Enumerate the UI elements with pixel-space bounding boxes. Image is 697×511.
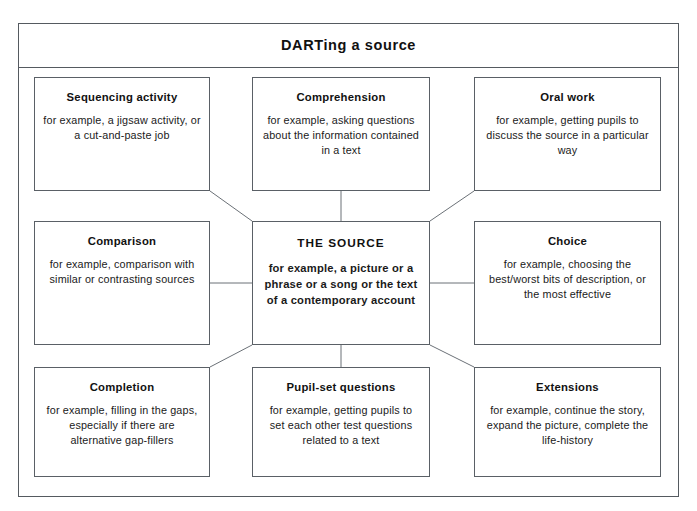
- node-heading: Comprehension: [296, 91, 385, 104]
- node-body: for example, filling in the gaps, especi…: [35, 403, 209, 449]
- node-extensions[interactable]: Extensions for example, continue the sto…: [474, 367, 661, 477]
- node-heading: Completion: [90, 381, 155, 394]
- node-heading: Sequencing activity: [67, 91, 178, 104]
- diagram-canvas: DARTing a source Sequencing activity for…: [0, 0, 697, 511]
- node-sequencing-activity[interactable]: Sequencing activity for example, a jigsa…: [34, 77, 210, 191]
- node-the-source[interactable]: THE SOURCE for example, a picture or a p…: [252, 221, 430, 345]
- node-heading: THE SOURCE: [297, 237, 384, 250]
- node-body: for example, a jigsaw activity, or a cut…: [35, 113, 209, 143]
- node-completion[interactable]: Completion for example, filling in the g…: [34, 367, 210, 477]
- node-body: for example, comparison with similar or …: [35, 257, 209, 287]
- node-body: for example, asking questions about the …: [253, 113, 429, 159]
- node-comparison[interactable]: Comparison for example, comparison with …: [34, 221, 210, 345]
- node-body: for example, getting pupils to set each …: [253, 403, 429, 449]
- node-body: for example, choosing the best/worst bit…: [475, 257, 660, 303]
- node-choice[interactable]: Choice for example, choosing the best/wo…: [474, 221, 661, 345]
- connector-oral-center: [430, 191, 474, 221]
- node-heading: Oral work: [540, 91, 594, 104]
- connector-sequencing-center: [210, 191, 252, 221]
- node-body: for example, getting pupils to discuss t…: [475, 113, 660, 159]
- node-comprehension[interactable]: Comprehension for example, asking questi…: [252, 77, 430, 191]
- node-pupil-set-questions[interactable]: Pupil-set questions for example, getting…: [252, 367, 430, 477]
- node-heading: Extensions: [536, 381, 599, 394]
- node-oral-work[interactable]: Oral work for example, getting pupils to…: [474, 77, 661, 191]
- node-body: for example, continue the story, expand …: [475, 403, 660, 449]
- node-heading: Comparison: [88, 235, 156, 248]
- connector-extensions-center: [430, 345, 474, 367]
- page-title: DARTing a source: [281, 37, 416, 53]
- diagram-title-bar: DARTing a source: [18, 23, 679, 68]
- node-heading: Pupil-set questions: [287, 381, 396, 394]
- node-heading: Choice: [548, 235, 587, 248]
- node-body: for example, a picture or a phrase or a …: [253, 260, 429, 308]
- connector-completion-center: [210, 345, 252, 367]
